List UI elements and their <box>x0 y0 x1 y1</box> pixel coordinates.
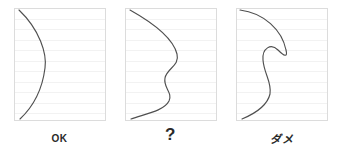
monotonic-convex-curve-path <box>19 10 45 119</box>
self-overlapping-cusp-curve <box>236 8 328 121</box>
self-overlapping-cusp-curve-path <box>240 10 287 119</box>
panel-question: ? <box>124 8 217 142</box>
figure-container: OK ? <box>0 0 341 155</box>
panel-question-label: ? <box>165 126 176 142</box>
panel-ok: OK <box>13 8 106 147</box>
panel-dame: ダメ <box>235 8 328 147</box>
s-wiggle-curve <box>125 8 217 121</box>
panel-dame-label: ダメ <box>270 131 293 147</box>
panel-question-frame <box>125 8 217 121</box>
s-wiggle-curve-path <box>130 10 177 119</box>
monotonic-convex-curve <box>14 8 106 121</box>
panel-group: OK ? <box>0 0 341 155</box>
panel-dame-frame <box>236 8 328 121</box>
panel-ok-frame <box>14 8 106 121</box>
panel-ok-label: OK <box>52 131 68 147</box>
